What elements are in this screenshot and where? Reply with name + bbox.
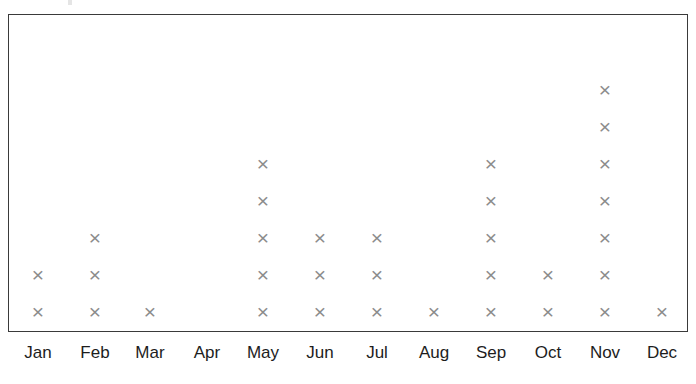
x-axis-tick-labels: JanFebMarAprMayJunJulAugSepOctNovDec (0, 340, 696, 372)
x-axis-title (0, 0, 1, 1)
x-tick-label-nov: Nov (575, 340, 635, 366)
x-tick-label-apr: Apr (177, 340, 237, 366)
x-tick-label-jun: Jun (290, 340, 350, 366)
chart-title (0, 0, 1, 1)
x-tick-label-may: May (233, 340, 293, 366)
y-axis-title (0, 0, 1, 1)
plot-frame (8, 14, 688, 332)
x-tick-label-jul: Jul (347, 340, 407, 366)
x-tick-label-sep: Sep (461, 340, 521, 366)
x-tick-label-dec: Dec (632, 340, 692, 366)
x-tick-label-mar: Mar (120, 340, 180, 366)
x-tick-label-feb: Feb (65, 340, 125, 366)
chart-page: ××××××××××××××××××××××××××××××××× JanFeb… (0, 0, 696, 384)
x-tick-label-jan: Jan (8, 340, 68, 366)
x-tick-label-oct: Oct (518, 340, 578, 366)
scan-artifact-speck (68, 0, 72, 5)
x-tick-label-aug: Aug (404, 340, 464, 366)
